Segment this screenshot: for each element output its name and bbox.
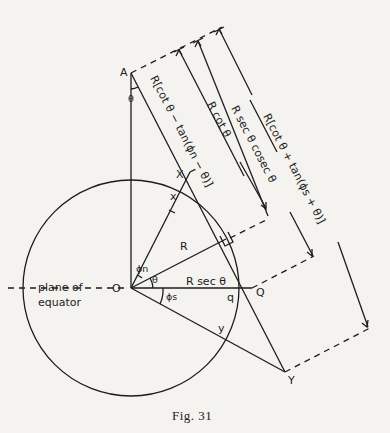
- label-Y: Y: [287, 374, 295, 387]
- label-x: x: [170, 190, 177, 203]
- label-R: R: [180, 240, 188, 253]
- figure-caption: Fig. 31: [172, 408, 212, 423]
- figure-31-diagram: A O X x Q q Y y θ θ ϕn ϕs R R sec θ plan…: [0, 0, 390, 433]
- label-A: A: [120, 66, 128, 79]
- label-theta-A: θ: [128, 93, 134, 104]
- ext-line-tangent: [230, 219, 268, 238]
- ext-line-Y: [285, 328, 370, 372]
- label-Q: Q: [256, 286, 265, 299]
- arc-phi-s: [160, 288, 163, 304]
- label-theta-O: θ: [152, 274, 158, 285]
- plane-label-line2: equator: [38, 296, 82, 309]
- label-y: y: [218, 322, 225, 335]
- ext-line-Q: [252, 256, 314, 288]
- arc-theta-A: [131, 87, 138, 89]
- plane-label-line1: plane of: [38, 281, 84, 294]
- arc-phi-n: [137, 275, 142, 278]
- label-O: O: [112, 282, 121, 295]
- label-phi-n: ϕn: [136, 263, 148, 274]
- label-OQ: R sec θ: [186, 275, 226, 288]
- label-phi-s: ϕs: [166, 291, 177, 302]
- label-X: X: [176, 168, 184, 181]
- line-OY: [131, 288, 285, 372]
- label-q: q: [227, 291, 234, 304]
- right-angle-marker: [220, 232, 233, 246]
